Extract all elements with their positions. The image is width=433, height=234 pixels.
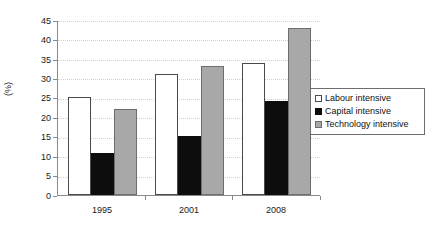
bar-group-1995 (68, 20, 144, 195)
x-tick-mark (320, 196, 321, 200)
y-tick-label: 0 (25, 192, 51, 201)
y-tick-label: 20 (25, 114, 51, 123)
bar-capital-2001[interactable] (178, 136, 201, 195)
legend-label: Capital intensive (325, 107, 391, 116)
bar-capital-2008[interactable] (265, 101, 288, 195)
bar-labour-2001[interactable] (155, 74, 178, 195)
y-tick-label: 5 (25, 172, 51, 181)
x-tick-label-1995: 1995 (67, 205, 137, 215)
bar-chart: 45 40 35 30 25 20 15 10 5 0 (%) (0, 0, 433, 234)
y-axis-title: (%) (4, 82, 13, 96)
y-tick-label: 15 (25, 133, 51, 142)
plot-area (57, 21, 320, 196)
x-tick-label-2008: 2008 (241, 205, 311, 215)
y-tick-label: 40 (25, 36, 51, 45)
bar-tech-2001[interactable] (201, 66, 224, 195)
y-tick-label: 10 (25, 153, 51, 162)
legend-swatch-technology-icon (315, 121, 322, 128)
y-tick-mark (53, 196, 57, 197)
bar-tech-1995[interactable] (114, 109, 137, 195)
legend-item-labour[interactable]: Labour intensive (315, 92, 420, 104)
legend-label: Labour intensive (325, 94, 391, 103)
y-axis: 45 40 35 30 25 20 15 10 5 0 (22, 0, 51, 234)
bar-group-2001 (155, 20, 231, 195)
bar-tech-2008[interactable] (288, 28, 311, 195)
bar-capital-1995[interactable] (91, 153, 114, 195)
bar-labour-2008[interactable] (242, 63, 265, 195)
x-tick-mark (232, 196, 233, 200)
legend-item-capital[interactable]: Capital intensive (315, 105, 420, 117)
legend-swatch-capital-icon (315, 108, 322, 115)
y-tick-label: 35 (25, 56, 51, 65)
y-tick-label: 45 (25, 17, 51, 26)
legend: Labour intensive Capital intensive Techn… (310, 88, 425, 135)
x-tick-label-2001: 2001 (154, 205, 224, 215)
bar-labour-1995[interactable] (68, 97, 91, 195)
legend-item-technology[interactable]: Technology intensive (315, 118, 420, 130)
y-tick-label: 25 (25, 94, 51, 103)
x-tick-mark (145, 196, 146, 200)
legend-label: Technology intensive (325, 120, 409, 129)
bar-group-2008 (242, 20, 318, 195)
legend-swatch-labour-icon (315, 95, 322, 102)
y-tick-label: 30 (25, 75, 51, 84)
